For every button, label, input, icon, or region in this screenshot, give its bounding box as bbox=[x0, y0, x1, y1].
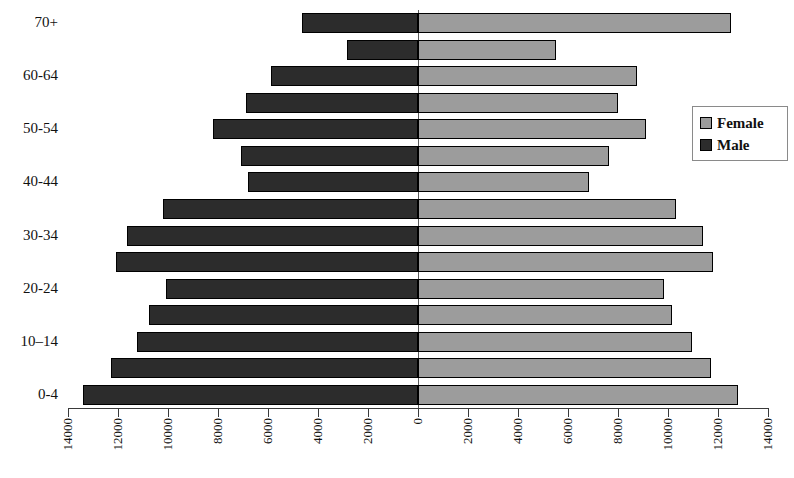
bar-row bbox=[68, 119, 768, 139]
category-label: 10–14 bbox=[21, 334, 59, 349]
bar-male bbox=[137, 332, 418, 352]
x-axis-tick bbox=[568, 408, 569, 417]
bar-male bbox=[347, 40, 418, 60]
bar-row bbox=[68, 358, 768, 378]
x-axis-tick bbox=[618, 408, 619, 417]
bar-row bbox=[68, 385, 768, 405]
bar-male bbox=[246, 93, 419, 113]
bar-female bbox=[418, 199, 676, 219]
category-label: 0-4 bbox=[38, 387, 58, 402]
bar-row bbox=[68, 146, 768, 166]
bar-male bbox=[163, 199, 418, 219]
x-axis-tick-labels: 1400012000100008000600040002000020004000… bbox=[0, 418, 794, 478]
bar-female bbox=[418, 146, 609, 166]
legend-swatch-male-icon bbox=[700, 139, 712, 151]
category-label: 20-24 bbox=[23, 281, 58, 296]
bar-female bbox=[418, 332, 692, 352]
x-axis-tick bbox=[718, 408, 719, 417]
bar-row bbox=[68, 305, 768, 325]
x-axis-tick-label: 12000 bbox=[111, 418, 124, 451]
x-axis-tick bbox=[518, 408, 519, 417]
bar-female bbox=[418, 66, 637, 86]
bar-female bbox=[418, 13, 731, 33]
x-axis-tick bbox=[368, 408, 369, 417]
x-axis-tick-label: 12000 bbox=[711, 418, 724, 451]
bar-male bbox=[271, 66, 419, 86]
x-axis-tick-label: 14000 bbox=[61, 418, 74, 451]
bar-row bbox=[68, 252, 768, 272]
legend-item-female: Female bbox=[700, 112, 787, 134]
category-label: 70+ bbox=[35, 15, 58, 30]
bar-row bbox=[68, 93, 768, 113]
plot-area bbox=[68, 10, 768, 408]
x-axis-tick bbox=[118, 408, 119, 417]
bar-male bbox=[302, 13, 418, 33]
bar-row bbox=[68, 199, 768, 219]
x-axis-tick-label: 6000 bbox=[261, 418, 274, 444]
bar-female bbox=[418, 385, 738, 405]
bar-row bbox=[68, 66, 768, 86]
bar-female bbox=[418, 305, 672, 325]
bar-female bbox=[418, 358, 711, 378]
x-axis-tick-label: 10000 bbox=[661, 418, 674, 451]
category-axis-labels: 0-410–1420-2430-3440-4450-5460-6470+ bbox=[0, 10, 66, 408]
x-axis-tick-label: 6000 bbox=[561, 418, 574, 444]
bar-male bbox=[213, 119, 418, 139]
bar-female bbox=[418, 93, 618, 113]
x-axis-tick-label: 0 bbox=[411, 418, 424, 425]
category-label: 50-54 bbox=[23, 121, 58, 136]
bar-row bbox=[68, 40, 768, 60]
bar-row bbox=[68, 13, 768, 33]
bar-row bbox=[68, 226, 768, 246]
category-label: 40-44 bbox=[23, 174, 58, 189]
chart-legend: Female Male bbox=[692, 106, 788, 161]
category-label: 30-34 bbox=[23, 228, 58, 243]
bar-male bbox=[241, 146, 419, 166]
legend-swatch-female-icon bbox=[700, 117, 712, 129]
x-axis-tick-label: 14000 bbox=[761, 418, 774, 451]
bar-male bbox=[116, 252, 419, 272]
bar-male bbox=[166, 279, 419, 299]
x-axis-tick-label: 4000 bbox=[311, 418, 324, 444]
bar-female bbox=[418, 226, 703, 246]
x-axis-tick-label: 10000 bbox=[161, 418, 174, 451]
x-axis-tick-label: 8000 bbox=[211, 418, 224, 444]
x-axis-tick bbox=[68, 408, 69, 417]
bar-male bbox=[149, 305, 418, 325]
x-axis-tick bbox=[768, 408, 769, 417]
x-axis-tick bbox=[668, 408, 669, 417]
bar-male bbox=[111, 358, 419, 378]
legend-label-female: Female bbox=[717, 116, 764, 131]
x-axis-tick bbox=[468, 408, 469, 417]
legend-label-male: Male bbox=[717, 138, 749, 153]
x-axis-tick bbox=[218, 408, 219, 417]
bar-female bbox=[418, 40, 556, 60]
x-axis-tick bbox=[268, 408, 269, 417]
x-axis-tick-label: 8000 bbox=[611, 418, 624, 444]
x-axis-tick-label: 2000 bbox=[461, 418, 474, 444]
category-label: 60-64 bbox=[23, 68, 58, 83]
bar-male bbox=[248, 172, 418, 192]
bar-female bbox=[418, 252, 713, 272]
bar-row bbox=[68, 332, 768, 352]
bar-female bbox=[418, 172, 589, 192]
population-pyramid-chart: 0-410–1420-2430-3440-4450-5460-6470+ 140… bbox=[0, 0, 794, 478]
legend-item-male: Male bbox=[700, 134, 787, 156]
x-axis-tick bbox=[168, 408, 169, 417]
bar-row bbox=[68, 172, 768, 192]
x-axis-tick bbox=[418, 408, 419, 417]
bar-male bbox=[127, 226, 418, 246]
x-axis-tick bbox=[318, 408, 319, 417]
x-axis-tick-label: 2000 bbox=[361, 418, 374, 444]
bar-female bbox=[418, 279, 664, 299]
bar-row bbox=[68, 279, 768, 299]
x-axis-tick-label: 4000 bbox=[511, 418, 524, 444]
bar-female bbox=[418, 119, 646, 139]
bar-male bbox=[83, 385, 418, 405]
x-axis-ticks bbox=[68, 408, 768, 418]
